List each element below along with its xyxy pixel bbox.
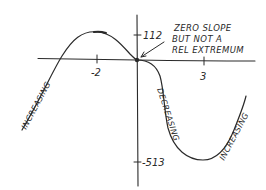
annotation-line-1: ZERO SLOPE: [173, 23, 232, 33]
x-label-neg2: -2: [91, 67, 101, 78]
label-decreasing-middle: DECREASING: [155, 87, 181, 143]
y-label-112: 112: [143, 30, 162, 41]
annotation-arrow: [141, 42, 164, 57]
label-increasing-right: INCREASING: [218, 111, 251, 162]
label-increasing-left: INCREASING: [20, 80, 53, 131]
y-label-neg513: -513: [142, 157, 165, 168]
y-axis: [137, 15, 138, 186]
x-label-3: 3: [200, 71, 206, 82]
x-axis: [38, 59, 255, 62]
function-sketch: -2 3 112 -513 ZERO SLOPE BUT NOT A REL E…: [0, 0, 266, 190]
origin-point: [135, 58, 139, 62]
annotation-line-3: REL EXTREMUM: [172, 45, 244, 55]
annotation-line-2: BUT NOT A: [172, 34, 222, 44]
